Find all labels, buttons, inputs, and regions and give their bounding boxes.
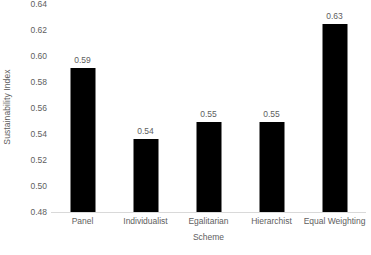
bar-group: 0.59 [51, 4, 114, 212]
bar [196, 122, 221, 212]
y-axis-tick-label: 0.54 [30, 130, 47, 139]
plot-area: 0.590.540.550.550.63 [51, 4, 366, 213]
bar [322, 24, 347, 213]
bar [259, 122, 284, 212]
x-axis-tick-label: Hierarchist [240, 216, 303, 227]
x-axis-title: Scheme [51, 232, 366, 243]
bar-value-label: 0.55 [200, 110, 217, 119]
y-axis-tick-label: 0.52 [30, 156, 47, 165]
bar [133, 139, 158, 212]
bar-group: 0.54 [114, 4, 177, 212]
bar-value-label: 0.54 [137, 127, 154, 136]
y-axis-title: Sustainability Index [0, 0, 14, 213]
bar-group: 0.55 [240, 4, 303, 212]
y-axis-tick-label: 0.60 [30, 52, 47, 61]
bar-group: 0.55 [177, 4, 240, 212]
bar-group: 0.63 [303, 4, 366, 212]
x-axis-tick-label: Egalitarian [177, 216, 240, 227]
bar [70, 68, 95, 212]
y-axis-tick-label: 0.64 [30, 0, 47, 9]
x-axis-tick-label: Panel [51, 216, 114, 227]
x-axis-tick-labels: PanelIndividualistEgalitarianHierarchist… [51, 216, 366, 232]
bar-value-label: 0.55 [263, 110, 280, 119]
y-axis-tick-labels: 0.640.620.600.580.560.540.520.500.48 [14, 0, 50, 222]
bar-chart: Sustainability Index 0.640.620.600.580.5… [0, 0, 371, 255]
y-axis-title-text: Sustainability Index [2, 69, 12, 144]
bar-value-label: 0.59 [74, 56, 91, 65]
bar-value-label: 0.63 [326, 12, 343, 21]
y-axis-tick-label: 0.56 [30, 104, 47, 113]
y-axis-tick-label: 0.62 [30, 26, 47, 35]
y-axis-tick-label: 0.50 [30, 182, 47, 191]
y-axis-tick-label: 0.48 [30, 208, 47, 217]
x-axis-tick-label: Equal Weighting [303, 216, 366, 227]
y-axis-tick-label: 0.58 [30, 78, 47, 87]
x-axis-line [51, 212, 366, 213]
x-axis-tick-label: Individualist [114, 216, 177, 227]
